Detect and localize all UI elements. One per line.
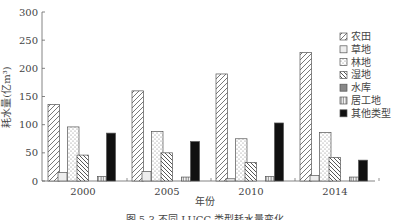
x-tick-label: 2000 <box>70 186 95 197</box>
bar-草地 <box>226 179 235 181</box>
bar-农田 <box>48 104 60 181</box>
bar-农田 <box>300 53 312 181</box>
x-tick-label: 2005 <box>154 186 179 197</box>
x-tick-label: 2010 <box>238 186 263 197</box>
y-tick-label: 0 <box>32 176 38 187</box>
bar-其他类型 <box>107 133 116 181</box>
legend-label: 草地 <box>351 43 371 55</box>
bar-居工地 <box>98 176 107 181</box>
x-axis-label: 年份 <box>195 195 215 207</box>
bar-其他类型 <box>191 142 200 181</box>
legend-swatch <box>340 84 347 91</box>
x-tick-label: 2014 <box>322 186 347 197</box>
bar-居工地 <box>350 177 359 181</box>
bar-湿地 <box>245 162 257 181</box>
bar-草地 <box>310 175 319 181</box>
bar-湿地 <box>161 153 173 181</box>
legend-label: 农田 <box>351 30 371 42</box>
legend-swatch <box>340 59 347 66</box>
bar-草地 <box>142 171 151 181</box>
y-axis-label: 耗水量(亿m³) <box>0 66 12 127</box>
bar-湿地 <box>329 157 341 181</box>
y-tick-label: 100 <box>19 119 38 130</box>
legend-label: 湿地 <box>351 68 371 80</box>
y-tick-label: 250 <box>19 35 38 46</box>
bar-湿地 <box>77 155 89 181</box>
legend-label: 其他类型 <box>351 107 391 119</box>
bar-居工地 <box>266 176 275 181</box>
bar-其他类型 <box>359 160 368 181</box>
bar-居工地 <box>182 177 191 181</box>
y-tick-label: 50 <box>25 147 38 158</box>
legend-label: 居工地 <box>351 94 381 106</box>
y-tick-label: 200 <box>19 63 38 74</box>
figure-caption: 图 5-3 不同 LUCC 类型耗水量变化 <box>126 213 285 220</box>
legend-swatch <box>340 110 347 117</box>
legend-swatch <box>340 71 347 78</box>
legend-swatch <box>340 33 347 40</box>
bar-农田 <box>216 74 228 181</box>
legend: 农田草地林地湿地水库居工地其他类型 <box>340 30 391 119</box>
legend-label: 水库 <box>351 81 371 93</box>
legend-swatch <box>340 97 347 104</box>
legend-swatch <box>340 46 347 53</box>
bar-其他类型 <box>275 123 284 181</box>
bar-chart: 0501001502002503002000200520102014 农田草地林… <box>0 0 395 220</box>
legend-label: 林地 <box>351 56 371 68</box>
y-tick-label: 300 <box>19 7 38 18</box>
bar-草地 <box>58 173 67 181</box>
bars <box>48 53 368 181</box>
bar-农田 <box>132 91 144 181</box>
y-tick-label: 150 <box>19 91 38 102</box>
